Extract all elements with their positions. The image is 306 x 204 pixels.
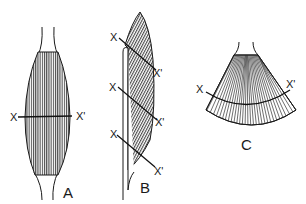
muscle-diagram: X X' A X X' X X' X X' B [0,0,306,204]
panel-b-x-prime-label-3: X' [154,165,163,177]
panel-a-caption: A [63,184,73,201]
panel-c-tendon [234,42,258,55]
panel-b-x-prime-label-2: X' [155,116,164,128]
panel-c-fan-muscle: X X' C [196,42,296,153]
panel-c-caption: C [241,136,252,153]
panel-a-bottom-tendon [34,172,58,200]
panel-b-unipennate-muscle: X X' X X' X X' B [109,12,164,200]
panel-b-x-prime-label-1: X' [153,67,162,79]
panel-a-muscle-belly [25,52,70,175]
panel-c-x-label: X [196,83,204,95]
panel-b-x-label-2: X [109,81,117,93]
panel-b-x-label-3: X [110,128,118,140]
panel-a-x-prime-label: X' [76,110,85,122]
panel-a-fusiform-muscle: X X' A [10,27,85,201]
panel-b-x-label-1: X [110,31,118,43]
panel-a-x-label: X [10,111,18,123]
panel-b-caption: B [140,179,150,196]
panel-a-top-tendon [38,27,58,55]
panel-c-x-prime-label: X' [286,78,295,90]
